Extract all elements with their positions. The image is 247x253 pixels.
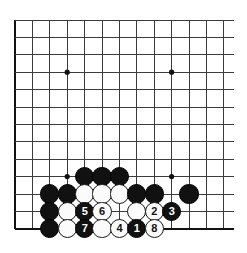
stone-white (92, 219, 111, 238)
move-number-label: 4 (116, 223, 122, 234)
move-number-label: 3 (169, 205, 175, 216)
stone-black (179, 184, 198, 203)
stone-move-2: 2 (145, 202, 164, 221)
stone-white (58, 202, 77, 221)
move-number-label: 5 (82, 205, 88, 216)
stone-black (40, 184, 59, 203)
star-point (169, 174, 174, 179)
stone-move-3: 3 (162, 202, 181, 221)
goban-grid (0, 0, 247, 253)
stone-black (92, 167, 111, 186)
move-number-label: 7 (82, 223, 88, 234)
stone-black (58, 184, 77, 203)
stone-white (58, 219, 77, 238)
stone-move-8: 8 (145, 219, 164, 238)
stone-move-5: 5 (75, 202, 94, 221)
stone-white (92, 184, 111, 203)
stone-white (75, 184, 94, 203)
stone-move-6: 6 (92, 202, 111, 221)
stone-black (110, 167, 129, 186)
move-number-label: 8 (151, 223, 157, 234)
move-number-label: 1 (134, 223, 140, 234)
star-point (65, 174, 70, 179)
go-board-diagram: 56237418 (0, 0, 247, 253)
move-number-label: 6 (99, 205, 105, 216)
stone-black (127, 184, 146, 203)
star-point (65, 70, 70, 75)
stone-white (110, 184, 129, 203)
stone-black (145, 184, 164, 203)
star-point (169, 70, 174, 75)
move-number-label: 2 (151, 205, 157, 216)
